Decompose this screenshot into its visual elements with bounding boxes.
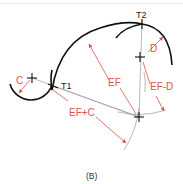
main-arc-ef	[52, 23, 142, 90]
label-t2: T2	[136, 10, 147, 20]
figure-caption: (B)	[86, 171, 98, 181]
small-arc-c	[10, 84, 52, 100]
label-d: D	[150, 43, 157, 54]
dimension-lines	[19, 37, 164, 143]
label-c: C	[16, 75, 23, 86]
tangent-arc-diagram: C T1 T2 D EF EF-D EF+C (B)	[0, 0, 183, 184]
dim-ef-upper	[89, 44, 109, 80]
dim-ef-lower	[120, 88, 136, 114]
label-ef: EF	[108, 77, 121, 88]
arc-d-left	[116, 24, 142, 38]
label-ef-plus-c: EF+C	[69, 107, 95, 118]
dim-ef-d-lower	[156, 96, 164, 111]
dim-ef-c-upper	[53, 90, 68, 101]
curves	[10, 23, 172, 100]
label-t1: T1	[61, 81, 72, 91]
label-ef-minus-d: EF-D	[150, 81, 173, 92]
arc-extension-t1	[51, 70, 52, 90]
center-d	[135, 52, 145, 62]
dim-ef-c-lower	[96, 117, 126, 143]
